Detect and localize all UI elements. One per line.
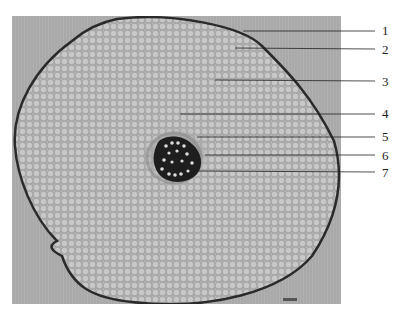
label-7: 7 [382, 166, 389, 180]
label-6: 6 [382, 149, 389, 163]
label-4: 4 [382, 107, 389, 121]
label-1: 1 [382, 24, 389, 38]
label-5: 5 [382, 130, 389, 144]
root-cross-section [12, 16, 341, 304]
scale-bar [283, 298, 297, 301]
label-3: 3 [382, 75, 389, 89]
label-2: 2 [382, 43, 389, 57]
micrograph-photo [12, 16, 341, 304]
